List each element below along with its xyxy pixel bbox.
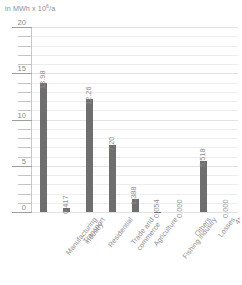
bar-value-label: 0.417 xyxy=(61,196,70,215)
bar xyxy=(200,161,207,212)
y-tick-minor xyxy=(18,83,32,84)
gridline-minor xyxy=(32,101,238,102)
y-tick-minor xyxy=(18,194,32,195)
y-axis-unit-caption: in MWh x 106/a xyxy=(5,3,55,13)
gridline-major xyxy=(32,73,238,74)
y-tick-minor xyxy=(18,92,32,93)
y-tick-major xyxy=(12,166,32,167)
bar xyxy=(40,83,47,212)
x-category-label: 4* xyxy=(233,216,242,226)
gridline-minor xyxy=(32,138,238,139)
y-tick-major xyxy=(12,212,32,213)
y-tick-minor xyxy=(18,36,32,37)
category-label-line: 4* xyxy=(233,216,242,226)
y-tick-minor xyxy=(18,138,32,139)
bar-value-label: 0.000 xyxy=(221,200,230,219)
y-tick-minor xyxy=(18,46,32,47)
y-tick-label: 5 xyxy=(2,157,26,166)
bar xyxy=(86,99,93,212)
y-tick-minor xyxy=(18,101,32,102)
bar-value-label: 7.20 xyxy=(107,137,116,151)
bar-chart: in MWh x 106/a 0510152013.98Manufacturin… xyxy=(0,0,242,285)
gridline-major xyxy=(32,120,238,121)
unit-caption-suffix: /a xyxy=(49,4,55,13)
bar-value-label: 12.26 xyxy=(84,86,93,105)
y-tick-major xyxy=(12,73,32,74)
bar xyxy=(109,145,116,212)
y-tick-minor xyxy=(18,129,32,130)
bar-value-label: 5.518 xyxy=(198,148,207,167)
y-tick-label: 15 xyxy=(2,64,26,73)
gridline-minor xyxy=(32,36,238,37)
bar-value-label: 13.98 xyxy=(38,70,47,89)
y-tick-label: 10 xyxy=(2,111,26,120)
gridline-major xyxy=(32,27,238,28)
bar-value-label: 0.054 xyxy=(152,199,161,218)
gridline-minor xyxy=(32,46,238,47)
gridline-minor xyxy=(32,129,238,130)
y-tick-minor xyxy=(18,55,32,56)
gridline-minor xyxy=(32,157,238,158)
gridline-minor xyxy=(32,55,238,56)
unit-caption-text: in MWh x 10 xyxy=(5,4,46,13)
y-tick-major xyxy=(12,27,32,28)
gridline-minor xyxy=(32,92,238,93)
y-tick-label: 20 xyxy=(2,18,26,27)
y-tick-major xyxy=(12,120,32,121)
gridline-minor xyxy=(32,83,238,84)
gridline-minor xyxy=(32,147,238,148)
y-tick-minor xyxy=(18,184,32,185)
bar-value-label: 0.000 xyxy=(175,200,184,219)
plot-area xyxy=(32,27,238,212)
y-tick-minor xyxy=(18,175,32,176)
gridline-minor xyxy=(32,110,238,111)
y-tick-label: 0 xyxy=(2,203,26,212)
bar-value-label: 1.388 xyxy=(129,187,138,206)
y-tick-minor xyxy=(18,147,32,148)
gridline-minor xyxy=(32,64,238,65)
